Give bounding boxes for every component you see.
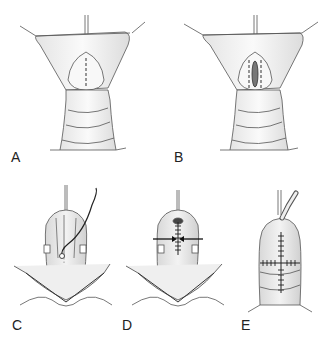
surgical-illustration: A B C xyxy=(0,0,327,337)
panel-e-drawing xyxy=(248,190,312,312)
panel-b-drawing xyxy=(184,15,318,150)
panel-label-a: A xyxy=(11,149,21,165)
panel-c-drawing xyxy=(14,185,112,306)
panel-a-drawing xyxy=(20,15,145,150)
panel-d-drawing xyxy=(126,190,224,306)
panel-label-b: B xyxy=(174,149,183,165)
panel-label-d: D xyxy=(122,317,132,333)
panel-label-c: C xyxy=(12,317,22,333)
panel-label-e: E xyxy=(241,317,250,333)
